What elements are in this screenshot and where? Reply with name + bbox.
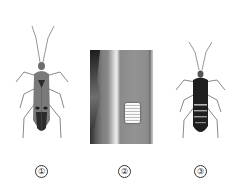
panel-1-adult-insect <box>10 10 72 150</box>
egg-mass <box>125 103 140 123</box>
panel-2-egg-photo <box>90 50 153 144</box>
panel-3-label: ③ <box>194 165 207 178</box>
nymph-insect-icon <box>170 30 230 150</box>
adult-insect-icon <box>10 10 72 150</box>
panel-2-label: ② <box>118 165 131 178</box>
panel-1-label: ① <box>35 165 48 178</box>
panel-3-nymph-insect <box>170 30 230 150</box>
leaf-shadow <box>90 50 100 128</box>
